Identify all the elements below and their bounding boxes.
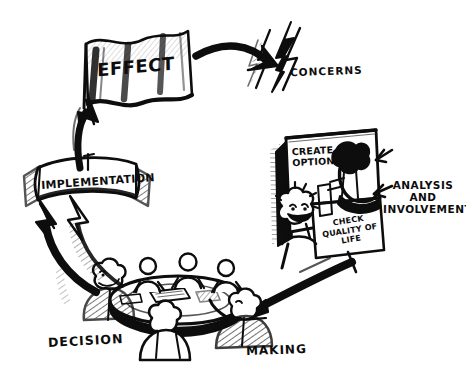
diagram-canvas: of Environmental Management: [0, 0, 466, 391]
analysis-line-2: AND: [383, 192, 463, 204]
analysis-line-3: INVOLVEMENT: [383, 204, 463, 216]
analysis-and-involvement-label: ANALYSIS AND INVOLVEMENT: [383, 180, 463, 215]
create-options-panel-label: CREATE OPTIONS: [291, 145, 341, 169]
analysis-line-1: ANALYSIS: [383, 180, 463, 192]
making-label: MAKING: [246, 343, 307, 359]
arrow-decision-to-implementation: [36, 196, 122, 292]
concerns-label: CONCERNS: [290, 65, 363, 79]
concerns-lightning-bolt: [248, 22, 300, 92]
